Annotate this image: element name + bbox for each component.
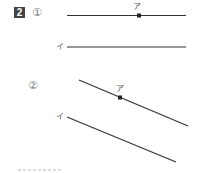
part-2-line-i [67, 117, 176, 162]
part-1-point-a [137, 14, 141, 18]
part-2-point-a [118, 96, 122, 100]
part-2-line-a [79, 80, 188, 126]
figure-lines [0, 0, 199, 173]
